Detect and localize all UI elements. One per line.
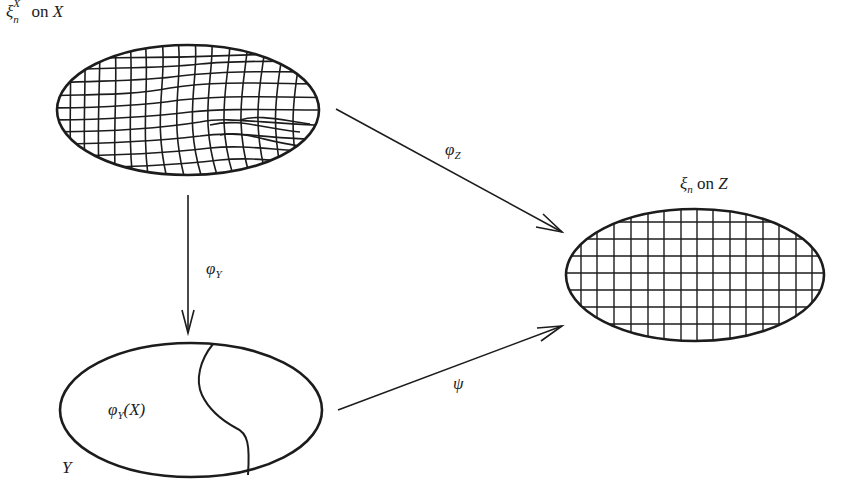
label-phi-symbol: φ bbox=[108, 400, 117, 419]
label-space-name: X bbox=[53, 2, 63, 21]
distorted-grid-x bbox=[40, 40, 340, 190]
arrow-phi-z bbox=[336, 109, 562, 232]
space-y-boundary bbox=[60, 343, 322, 477]
regular-grid-z bbox=[560, 200, 830, 350]
label-subscript: Y bbox=[117, 409, 123, 421]
label-superscript: X bbox=[13, 0, 20, 9]
label-phi-z: φZ bbox=[445, 140, 461, 160]
label-xi-on-x: ξXn on X bbox=[6, 2, 63, 22]
label-subscript: n bbox=[13, 13, 19, 25]
label-on-text: on bbox=[27, 2, 53, 21]
arrow-psi bbox=[338, 326, 562, 410]
label-phi-symbol: φ bbox=[445, 140, 454, 159]
label-psi: ψ bbox=[453, 374, 464, 394]
arrow-phi-y bbox=[182, 195, 194, 333]
label-phi-y: φY bbox=[206, 259, 222, 279]
label-xi-on-z: ξn on Z bbox=[680, 174, 728, 194]
label-phi-symbol: φ bbox=[206, 259, 215, 278]
label-space-y: Y bbox=[62, 458, 71, 478]
label-subscript: Z bbox=[454, 149, 460, 161]
diagram-canvas bbox=[0, 0, 858, 503]
label-subscript: n bbox=[687, 183, 693, 195]
label-on-text: on bbox=[693, 174, 719, 193]
label-subscript: Y bbox=[215, 268, 221, 280]
label-phi-y-of-x: φY(X) bbox=[108, 400, 145, 420]
label-space-name: Z bbox=[718, 174, 727, 193]
label-argument: (X) bbox=[124, 400, 146, 419]
space-z-boundary bbox=[566, 209, 824, 341]
image-region-boundary bbox=[199, 344, 249, 475]
